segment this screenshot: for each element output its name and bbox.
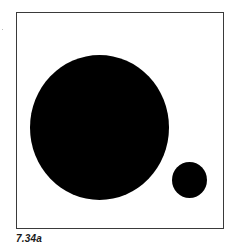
scan-speck — [2, 29, 3, 30]
figure-caption: 7.34a — [16, 233, 42, 244]
small-circle — [172, 162, 207, 198]
large-circle — [30, 55, 169, 200]
